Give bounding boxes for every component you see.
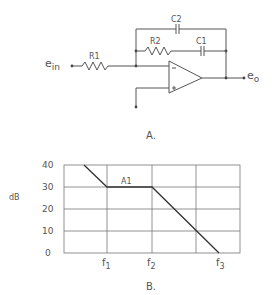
label-c2: C2 <box>171 15 182 24</box>
caption-b: B. <box>146 281 156 292</box>
resistor-r1 <box>82 62 108 70</box>
x-tick-f1: f1 <box>102 257 111 271</box>
label-r2: R2 <box>150 37 161 46</box>
y-tick-0: 0 <box>45 248 51 258</box>
y-tick-30: 30 <box>42 182 54 192</box>
ground-terminal <box>135 106 138 109</box>
chart-grid <box>64 165 240 253</box>
x-tick-f2: f2 <box>147 257 156 271</box>
label-eo: eo <box>247 69 260 84</box>
annotation-a1: A1 <box>121 177 132 186</box>
junction-dot <box>225 77 228 80</box>
figure: C2 R2 C1 R1 ein eo A. A1 40 30 20 10 0 d… <box>0 0 272 295</box>
x-tick-f3: f3 <box>216 257 225 271</box>
caption-a: A. <box>146 130 156 141</box>
label-ein: ein <box>45 57 60 72</box>
y-tick-20: 20 <box>42 204 54 214</box>
y-axis-label: dB <box>9 193 20 202</box>
resistor-r2 <box>145 47 171 55</box>
capacitor-c2 <box>176 24 179 34</box>
label-r1: R1 <box>89 52 100 61</box>
y-tick-40: 40 <box>42 160 54 170</box>
bode-chart: A1 40 30 20 10 0 dB f1 f2 f3 B. <box>9 160 240 292</box>
output-terminal <box>243 77 246 80</box>
capacitor-c1 <box>201 46 204 56</box>
label-c1: C1 <box>196 37 207 46</box>
y-tick-10: 10 <box>42 226 54 236</box>
